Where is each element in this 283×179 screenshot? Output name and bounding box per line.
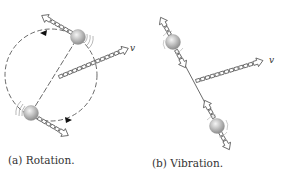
- vibration-arrow-top-inward: [172, 48, 189, 70]
- rotation-arrowhead-top-icon: [40, 30, 47, 36]
- caption-rotation: (a) Rotation.: [8, 154, 75, 166]
- rotation-path-circle: [5, 29, 97, 121]
- atom-ball-top: [71, 30, 86, 45]
- atom-ball-bottom: [24, 106, 39, 121]
- atom-ball-top-b: [166, 35, 181, 50]
- atom-ball-bottom-b: [210, 119, 225, 134]
- velocity-label-b: v: [269, 55, 274, 65]
- velocity-arrow-b: [195, 56, 265, 85]
- caption-vibration: (b) Vibration.: [152, 157, 223, 169]
- figure-rotation: v: [5, 12, 135, 140]
- velocity-arrow-a: [57, 44, 130, 81]
- vibration-arrow-bottom-inward: [201, 98, 218, 120]
- molecular-bond-line: [31, 37, 78, 113]
- diagram-canvas: v: [0, 0, 283, 179]
- velocity-label-a: v: [130, 43, 135, 53]
- figure-vibration: v: [157, 15, 274, 152]
